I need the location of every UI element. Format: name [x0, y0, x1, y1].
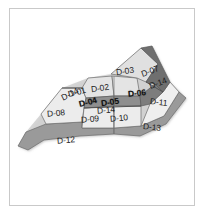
map-canvas	[0, 0, 204, 216]
zone-D-02[interactable]	[112, 76, 140, 96]
zone-D-08[interactable]	[41, 88, 86, 124]
map-figure: D-01 D-02 D-03 D-04 D-05 D-06 D-07 D-08 …	[0, 0, 204, 216]
zone-D-10[interactable]	[114, 106, 141, 128]
zone-D-04[interactable]	[84, 96, 114, 108]
zone-D-05[interactable]	[114, 96, 141, 106]
zone-D-09[interactable]	[82, 106, 114, 128]
